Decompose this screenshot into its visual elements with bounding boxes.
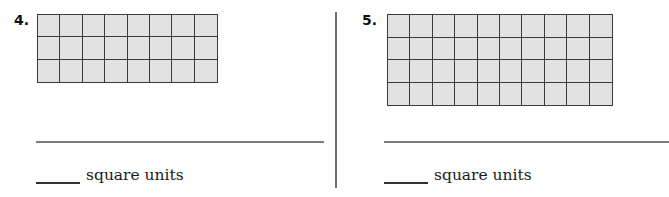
grid-square [128, 15, 150, 37]
area-grid-problem-5 [387, 14, 613, 106]
grid-square [105, 15, 127, 37]
work-line-problem-4[interactable] [36, 141, 324, 143]
grid-square [522, 15, 544, 38]
grid-square [545, 60, 567, 83]
grid-square [478, 15, 500, 38]
grid-square [455, 60, 477, 83]
grid-square [433, 15, 455, 38]
units-label-problem-5: square units [434, 166, 532, 184]
grid-square [567, 38, 589, 61]
grid-square [590, 60, 612, 83]
grid-square [128, 60, 150, 82]
grid-square [522, 60, 544, 83]
grid-square [38, 37, 60, 59]
grid-square [500, 38, 522, 61]
grid-square [500, 60, 522, 83]
grid-square [545, 83, 567, 106]
work-line-problem-5[interactable] [384, 141, 669, 143]
grid-square [545, 15, 567, 38]
grid-square [590, 15, 612, 38]
grid-square [455, 38, 477, 61]
grid-square [150, 15, 172, 37]
units-label-problem-4: square units [86, 166, 184, 184]
problem-number-5: 5. [362, 12, 377, 28]
grid-square [60, 60, 82, 82]
grid-square [172, 37, 194, 59]
grid-square [150, 37, 172, 59]
grid-square [195, 37, 217, 59]
grid-square [388, 60, 410, 83]
grid-square [410, 60, 432, 83]
grid-square [83, 60, 105, 82]
answer-blank-problem-5[interactable] [384, 182, 428, 184]
grid-square [83, 15, 105, 37]
grid-square [60, 15, 82, 37]
area-grid-problem-4 [37, 14, 218, 83]
grid-square [500, 83, 522, 106]
problem-number-4: 4. [14, 12, 29, 28]
column-divider [335, 12, 337, 188]
grid-square [195, 60, 217, 82]
grid-square [455, 83, 477, 106]
grid-square [83, 37, 105, 59]
grid-square [567, 83, 589, 106]
grid-square [590, 38, 612, 61]
grid-square [105, 60, 127, 82]
grid-square [410, 15, 432, 38]
grid-square [60, 37, 82, 59]
grid-square [522, 38, 544, 61]
grid-square [388, 38, 410, 61]
grid-square [567, 15, 589, 38]
grid-square [455, 15, 477, 38]
grid-square [150, 60, 172, 82]
grid-square [388, 83, 410, 106]
grid-square [195, 15, 217, 37]
grid-square [388, 15, 410, 38]
grid-square [38, 15, 60, 37]
grid-square [172, 60, 194, 82]
grid-square [478, 60, 500, 83]
grid-square [567, 60, 589, 83]
grid-square [105, 37, 127, 59]
grid-square [410, 83, 432, 106]
grid-square [433, 83, 455, 106]
grid-square [478, 38, 500, 61]
grid-square [522, 83, 544, 106]
grid-square [128, 37, 150, 59]
grid-square [38, 60, 60, 82]
grid-square [172, 15, 194, 37]
grid-square [433, 60, 455, 83]
grid-square [545, 38, 567, 61]
answer-blank-problem-4[interactable] [36, 182, 80, 184]
grid-square [410, 38, 432, 61]
grid-square [590, 83, 612, 106]
grid-square [478, 83, 500, 106]
grid-square [433, 38, 455, 61]
grid-square [500, 15, 522, 38]
